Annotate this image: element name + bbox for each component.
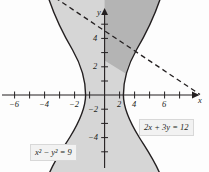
y-tick-label-neg4: −4: [88, 133, 98, 142]
x-tick-label-6: 6: [162, 100, 166, 109]
x-axis-label: x: [198, 96, 202, 105]
x-tick-label-neg4: −4: [39, 100, 49, 109]
y-axis-label: y: [97, 8, 101, 17]
x-tick-label-4: 4: [132, 100, 136, 109]
hyperbola-equation-label: x² − y² = 9: [30, 144, 77, 161]
x-tick-label-neg2: −2: [69, 100, 79, 109]
y-tick-label-neg2: −2: [88, 105, 98, 114]
x-tick-label-2: 2: [117, 100, 121, 109]
line-equation-label: 2x + 3y = 12: [139, 119, 194, 136]
x-tick-label-neg6: −6: [9, 100, 19, 109]
line-equation-text: 2x + 3y = 12: [144, 122, 189, 132]
y-tick-label-2: 2: [93, 62, 97, 71]
hyperbola-equation-text: x² − y² = 9: [35, 147, 72, 157]
figure-canvas: x y −6 −4 −2 2 4 6 4 2 −2 −4 x² − y² = 9…: [0, 0, 209, 172]
y-tick-label-4: 4: [93, 34, 97, 43]
